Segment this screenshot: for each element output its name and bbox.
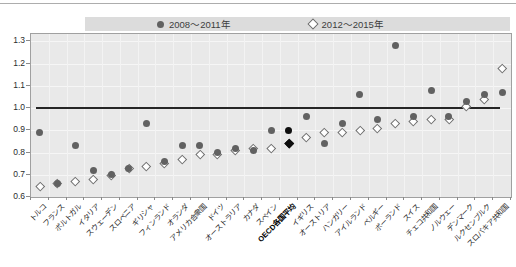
v-gridline	[155, 34, 156, 197]
x-tick	[350, 197, 351, 200]
x-tick	[172, 197, 173, 200]
data-point-diamond	[284, 139, 293, 148]
v-gridline	[422, 34, 423, 197]
v-gridline	[67, 34, 68, 197]
data-point-circle	[196, 142, 203, 149]
v-gridline	[120, 34, 121, 197]
data-point-circle	[374, 116, 381, 123]
x-tick	[403, 197, 404, 200]
v-gridline	[298, 34, 299, 197]
v-gridline	[369, 34, 370, 197]
data-point-circle	[250, 147, 257, 154]
data-point-circle	[339, 120, 346, 127]
data-point-circle	[54, 180, 61, 187]
y-tick-label: 1.0	[1, 102, 25, 112]
v-gridline	[84, 34, 85, 197]
x-tick	[66, 197, 67, 200]
legend-item-2008-2011: 2008〜2011年	[157, 17, 231, 31]
data-point-diamond	[89, 175, 98, 184]
data-point-circle	[303, 113, 310, 120]
v-gridline	[173, 34, 174, 197]
data-point-circle	[268, 127, 275, 134]
v-gridline	[102, 34, 103, 197]
x-tick	[492, 197, 493, 200]
x-tick	[190, 197, 191, 200]
data-point-circle	[72, 142, 79, 149]
v-gridline	[493, 34, 494, 197]
open-diamond-icon	[307, 18, 318, 29]
y-tick	[26, 129, 30, 130]
data-point-diamond	[320, 128, 329, 137]
x-tick	[386, 197, 387, 200]
data-point-circle	[463, 98, 470, 105]
y-tick	[26, 63, 30, 64]
x-tick	[119, 197, 120, 200]
data-point-diamond	[142, 161, 151, 170]
y-tick	[26, 85, 30, 86]
legend-label-2008-2011: 2008〜2011年	[169, 17, 231, 31]
y-tick	[26, 40, 30, 41]
data-point-diamond	[71, 177, 80, 186]
y-tick-label: 0.8	[1, 147, 25, 157]
legend-item-2012-2015: 2012〜2015年	[309, 17, 384, 31]
data-point-circle	[428, 87, 435, 94]
data-point-diamond	[426, 115, 435, 124]
top-divider-line	[0, 3, 516, 4]
v-gridline	[475, 34, 476, 197]
x-tick	[510, 197, 511, 200]
y-tick	[26, 107, 30, 108]
data-point-circle	[161, 158, 168, 165]
y-tick-label: 0.6	[1, 191, 25, 201]
legend-label-2012-2015: 2012〜2015年	[322, 17, 384, 31]
filled-circle-icon	[157, 21, 164, 28]
data-point-circle	[285, 127, 292, 134]
v-gridline	[333, 34, 334, 197]
data-point-circle	[321, 140, 328, 147]
data-point-circle	[108, 171, 115, 178]
data-point-circle	[392, 42, 399, 49]
v-gridline	[315, 34, 316, 197]
y-tick	[26, 152, 30, 153]
data-point-diamond	[498, 63, 507, 72]
data-point-diamond	[338, 128, 347, 137]
v-gridline	[262, 34, 263, 197]
data-point-circle	[232, 145, 239, 152]
x-tick	[30, 197, 31, 200]
v-gridline	[280, 34, 281, 197]
data-point-diamond	[178, 155, 187, 164]
v-gridline	[191, 34, 192, 197]
v-gridline	[440, 34, 441, 197]
x-tick	[332, 197, 333, 200]
data-point-diamond	[302, 132, 311, 141]
x-tick	[48, 197, 49, 200]
data-point-diamond	[195, 150, 204, 159]
v-gridline	[138, 34, 139, 197]
y-tick-label: 1.1	[1, 80, 25, 90]
legend-bar: 2008〜2011年 2012〜2015年	[85, 17, 510, 31]
v-gridline	[351, 34, 352, 197]
plot-area	[30, 33, 512, 198]
x-tick	[83, 197, 84, 200]
x-tick	[137, 197, 138, 200]
x-tick	[457, 197, 458, 200]
data-point-circle	[143, 120, 150, 127]
data-point-diamond	[355, 126, 364, 135]
x-tick	[208, 197, 209, 200]
v-gridline	[227, 34, 228, 197]
data-point-circle	[356, 91, 363, 98]
y-tick-label: 0.9	[1, 124, 25, 134]
baseline-1.0	[36, 107, 500, 109]
data-point-circle	[179, 142, 186, 149]
v-gridline	[387, 34, 388, 197]
x-tick	[368, 197, 369, 200]
v-gridline	[458, 34, 459, 197]
x-tick	[154, 197, 155, 200]
x-tick	[243, 197, 244, 200]
data-point-circle	[125, 165, 132, 172]
chart-figure: 2008〜2011年 2012〜2015年 0.60.70.80.91.01.1…	[0, 0, 516, 267]
y-tick	[26, 174, 30, 175]
v-gridline	[209, 34, 210, 197]
x-tick	[297, 197, 298, 200]
data-point-diamond	[35, 181, 44, 190]
data-point-diamond	[391, 119, 400, 128]
